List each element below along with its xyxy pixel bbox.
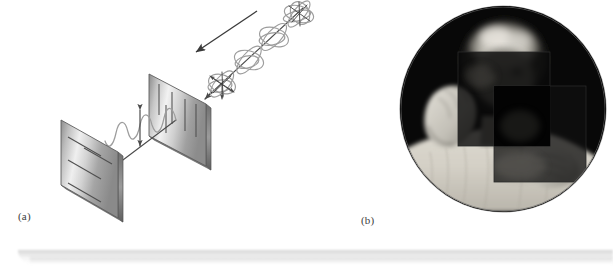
wave-loop-cluster-3: [232, 42, 266, 77]
panel-b-photograph: (b): [330, 0, 613, 252]
panel-b-caption: (b): [361, 214, 374, 226]
polarizer-vertical-edge: [206, 104, 211, 170]
wave-loop-cluster-2: [257, 20, 291, 55]
polarizer-vertical: [149, 74, 211, 170]
photograph-content-svg: [400, 6, 606, 212]
photo-clipped-content: [400, 6, 606, 212]
polarizer-analyzer-edge: [118, 152, 123, 222]
propagation-direction-arrow: [196, 11, 257, 52]
crossed-polarizers-photograph: [400, 6, 606, 212]
polarizer-analyzer-face: [61, 120, 118, 218]
unpolarized-wave-group: [205, 0, 316, 101]
polarizer-analyzer-horizontal: [61, 120, 123, 222]
polarization-diagram-svg: [0, 0, 330, 252]
wave-spokes: [211, 2, 310, 97]
panel-a-diagram: (a): [0, 0, 330, 252]
figure-root: (a): [0, 0, 613, 276]
panel-a-caption: (a): [18, 210, 31, 222]
page-bottom-shadow-soft: [30, 257, 613, 264]
